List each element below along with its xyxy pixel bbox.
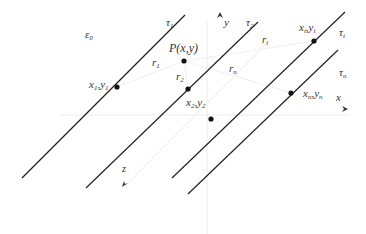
ray-r1 — [117, 61, 184, 87]
label-source-point: P(x,y) — [168, 41, 198, 55]
label-xiyi: xi,yi — [298, 21, 315, 35]
label-tau2: τ2 — [246, 16, 254, 30]
point-xiyi — [311, 38, 316, 43]
point-x1y1 — [114, 84, 119, 89]
label-x-axis: x — [335, 91, 341, 103]
label-r2: r2 — [176, 70, 184, 84]
diagram-canvas: ε0 τ1 τ2 τi τn P(x,y) r1 r2 ri rn x1,y1 … — [0, 0, 366, 234]
y-axis-arrow-icon — [217, 12, 223, 18]
x-axis-arrow-icon — [342, 106, 348, 112]
label-taui: τi — [339, 26, 345, 40]
label-x2y2: x2,y2 — [185, 96, 206, 110]
label-z-axis: z — [121, 163, 126, 174]
line-taun — [188, 50, 338, 194]
label-y-axis: y — [223, 16, 229, 28]
point-extra — [208, 116, 213, 121]
label-tau1: τ1 — [166, 16, 173, 30]
z-axis-line — [125, 40, 270, 186]
label-ri: ri — [262, 33, 268, 47]
line-tau1 — [22, 15, 185, 178]
point-P — [181, 58, 186, 63]
point-x2y2 — [185, 86, 190, 91]
label-x1y1: x1,y1 — [88, 78, 109, 92]
ray-ri — [184, 41, 315, 61]
region-label: ε0 — [85, 28, 93, 42]
label-rn: rn — [229, 62, 237, 76]
label-xnyn: xn,yn — [302, 87, 323, 101]
point-xnyn — [288, 90, 293, 95]
label-r1: r1 — [152, 56, 160, 70]
label-taun: τn — [339, 66, 347, 80]
ray-r2 — [184, 61, 188, 89]
